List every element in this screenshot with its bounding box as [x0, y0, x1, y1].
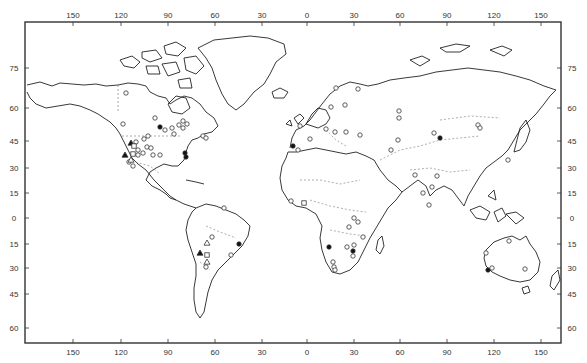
longitude-label: 150	[534, 348, 547, 357]
longitude-label: 150	[66, 11, 79, 20]
latitude-label: 45	[10, 137, 19, 146]
longitude-label: 90	[164, 348, 173, 357]
open-circle-marker	[361, 235, 365, 239]
open-circle-marker	[397, 116, 401, 120]
open-circle-marker	[351, 254, 355, 258]
longitude-label: 60	[396, 11, 405, 20]
longitude-label: 90	[164, 11, 173, 20]
latitude-label: 15	[10, 240, 19, 249]
open-circle-marker	[177, 123, 181, 127]
open-circle-marker	[151, 153, 155, 157]
open-circle-marker	[158, 153, 162, 157]
open-circle-marker	[324, 127, 328, 131]
open-circle-marker	[142, 137, 146, 141]
open-triangle-marker	[204, 259, 210, 264]
latitude-label: 75	[10, 64, 19, 73]
open-circle-marker	[352, 216, 356, 220]
open-square-marker	[131, 152, 135, 156]
latitude-label: 30	[10, 164, 19, 173]
open-circle-marker	[334, 86, 338, 90]
longitude-label: 120	[114, 11, 127, 20]
open-circle-marker	[490, 266, 494, 270]
filled-triangle-marker	[122, 152, 128, 157]
latitude-label: 60	[568, 104, 577, 113]
latitude-label: 45	[568, 290, 577, 299]
open-circle-marker	[397, 109, 401, 113]
longitude-label: 30	[350, 11, 359, 20]
longitude-label: 30	[258, 11, 267, 20]
filled-circle-marker	[237, 242, 241, 246]
open-circle-marker	[289, 199, 293, 203]
open-circle-marker	[146, 134, 150, 138]
open-circle-marker	[329, 105, 333, 109]
open-circle-marker	[204, 136, 208, 140]
open-circle-marker	[229, 253, 233, 257]
open-circle-marker	[131, 164, 135, 168]
open-circle-marker	[507, 239, 511, 243]
latitude-label: 45	[10, 290, 19, 299]
open-circle-marker	[427, 203, 431, 207]
latitude-label: 15	[568, 240, 577, 249]
open-circle-marker	[413, 173, 417, 177]
open-circle-marker	[141, 151, 145, 155]
latitude-label: 0	[570, 214, 574, 223]
open-circle-marker	[347, 225, 351, 229]
open-circle-marker	[356, 87, 360, 91]
open-circle-marker	[331, 260, 335, 264]
latitude-label: 60	[10, 104, 19, 113]
open-circle-marker	[298, 124, 302, 128]
open-circle-marker	[222, 206, 226, 210]
longitude-label: 30	[258, 348, 267, 357]
filled-circle-marker	[291, 144, 295, 148]
world-map	[0, 0, 587, 363]
open-circle-marker	[358, 133, 362, 137]
open-circle-marker	[333, 130, 337, 134]
open-circle-marker	[181, 126, 185, 130]
open-circle-marker	[149, 146, 153, 150]
latitude-label: 60	[568, 324, 577, 333]
coastlines	[27, 36, 560, 318]
latitude-label: 45	[568, 137, 577, 146]
open-circle-marker	[389, 148, 393, 152]
longitude-label: 90	[443, 348, 452, 357]
open-square-marker	[205, 253, 209, 257]
filled-circle-marker	[351, 249, 355, 253]
filled-circle-marker	[184, 155, 188, 159]
latitude-label: 15	[10, 189, 19, 198]
latitude-label: 15	[568, 189, 577, 198]
open-circle-marker	[506, 158, 510, 162]
open-circle-marker	[136, 153, 140, 157]
longitude-label: 30	[350, 348, 359, 357]
longitude-label: 120	[487, 11, 500, 20]
latitude-label: 0	[12, 214, 16, 223]
open-circle-marker	[170, 126, 174, 130]
filled-circle-marker	[438, 136, 442, 140]
map-frame	[25, 22, 561, 343]
open-circle-marker	[181, 119, 185, 123]
open-circle-marker	[308, 137, 312, 141]
open-circle-marker	[163, 128, 167, 132]
open-circle-marker	[343, 103, 347, 107]
longitude-label: 0	[305, 11, 309, 20]
longitude-label: 120	[487, 348, 500, 357]
longitude-label: 0	[305, 348, 309, 357]
longitude-label: 150	[534, 11, 547, 20]
open-circle-marker	[121, 122, 125, 126]
open-circle-marker	[352, 243, 356, 247]
longitude-label: 120	[114, 348, 127, 357]
longitude-label: 60	[211, 348, 220, 357]
open-circle-marker	[124, 91, 128, 95]
longitude-label: 90	[443, 11, 452, 20]
open-circle-marker	[484, 251, 488, 255]
open-circle-marker	[344, 130, 348, 134]
latitude-label: 60	[10, 324, 19, 333]
open-circle-marker	[204, 265, 208, 269]
open-circle-marker	[396, 138, 400, 142]
latitude-ticks	[25, 68, 561, 328]
open-square-marker	[132, 144, 136, 148]
filled-triangle-marker	[197, 250, 203, 255]
latitude-label: 30	[10, 264, 19, 273]
open-circle-marker	[296, 148, 300, 152]
latitude-label: 30	[568, 264, 577, 273]
open-triangle-marker	[204, 240, 210, 245]
